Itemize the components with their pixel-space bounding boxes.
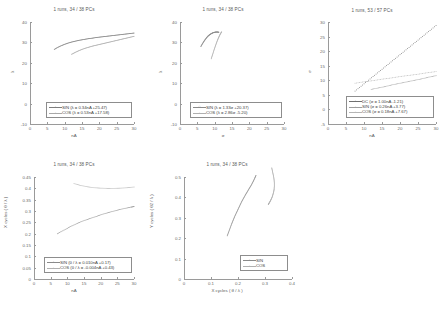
legend-item-cos[interactable]: +COS (λ = 2.86σ -5.20) bbox=[193, 110, 279, 115]
series-cos bbox=[74, 183, 135, 189]
chart-legend[interactable]: +SIN+COS bbox=[240, 255, 288, 271]
subplot-lambda-vs-na: 1 runs, 34 / 38 PCs051015202530-10010203… bbox=[0, 0, 148, 155]
legend-label: COS (σ = 0.18nA +7.67) bbox=[362, 109, 407, 114]
plot-data-layer bbox=[148, 155, 308, 310]
legend-label: DC (σ = 1.00nA -1.21) bbox=[362, 99, 403, 104]
legend-item-cos[interactable]: +COS bbox=[243, 263, 285, 268]
plot-data-layer bbox=[0, 155, 160, 310]
legend-marker-icon: + bbox=[193, 110, 206, 115]
series-sin bbox=[371, 75, 437, 89]
series-sin bbox=[200, 32, 219, 47]
legend-label: COS (λ = 0.53nA +17.58) bbox=[62, 110, 109, 115]
series-cos bbox=[355, 71, 437, 83]
series-sin bbox=[54, 33, 135, 50]
plot-data-layer bbox=[148, 0, 308, 155]
legend-marker-icon: + bbox=[49, 110, 62, 115]
series-cos bbox=[211, 31, 222, 59]
legend-marker-icon: + bbox=[349, 109, 362, 114]
legend-label: SIN (λ = 0.34nA +25.47) bbox=[62, 105, 107, 110]
legend-marker-icon: + bbox=[243, 263, 256, 268]
legend-item-cos[interactable]: +COS (λ = 0.53nA +17.58) bbox=[49, 110, 129, 115]
plot-data-layer bbox=[298, 0, 446, 155]
series-sin bbox=[227, 175, 257, 236]
legend-label: SIN (σ = 0.26nA +3.77) bbox=[362, 104, 405, 109]
plot-data-layer bbox=[0, 0, 160, 155]
series-sin bbox=[57, 206, 134, 234]
legend-label: COS (θ / λ = -0.004nA +0.43) bbox=[60, 265, 114, 270]
legend-label: SIN bbox=[256, 258, 263, 263]
chart-legend[interactable]: +SIN (θ / λ = 0.010nA +0.17)+COS (θ / λ … bbox=[44, 257, 132, 273]
subplot-lambda-vs-sigma: 1 runs, 34 / 38 PCs051015202530-10010203… bbox=[148, 0, 298, 155]
legend-label: COS (λ = 2.86σ -5.20) bbox=[206, 110, 247, 115]
chart-legend[interactable]: +SIN (λ = 0.34nA +25.47)+COS (λ = 0.53nA… bbox=[46, 102, 132, 118]
legend-label: SIN (λ = 1.33σ +20.37) bbox=[206, 105, 249, 110]
subplot-ycycles-vs-xcycles: 1 runs, 34 / 38 PCs00.10.20.30.400.10.20… bbox=[148, 155, 306, 310]
series-cos bbox=[268, 167, 275, 205]
series-cos bbox=[71, 36, 134, 55]
legend-item-cos[interactable]: +COS (θ / λ = -0.004nA +0.43) bbox=[47, 265, 129, 270]
chart-legend[interactable]: ·DC (σ = 1.00nA -1.21)+SIN (σ = 0.26nA +… bbox=[346, 96, 434, 118]
legend-label: SIN (θ / λ = 0.010nA +0.17) bbox=[60, 260, 111, 265]
subplot-sigma-vs-na: 1 runs, 53 / 57 PCs051015202530-50510152… bbox=[298, 0, 446, 155]
chart-legend[interactable]: ○SIN (λ = 1.33σ +20.37)+COS (λ = 2.86σ -… bbox=[190, 102, 282, 118]
legend-marker-icon: + bbox=[47, 265, 60, 270]
legend-item-cos[interactable]: +COS (σ = 0.18nA +7.67) bbox=[349, 109, 431, 114]
legend-label: COS bbox=[256, 263, 265, 268]
subplot-xcycles-vs-na: 1 runs, 34 / 38 PCs05101520253000.050.10… bbox=[0, 155, 148, 310]
